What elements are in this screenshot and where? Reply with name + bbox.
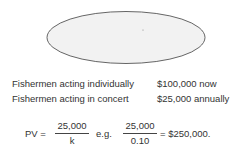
fraction-numerator: 25,000	[123, 120, 157, 132]
pv-formula: PV = 25,000 k e.g. 25,000 0.10 = $250,00…	[0, 120, 252, 152]
fraction-example: 25,000 0.10	[123, 120, 157, 147]
fraction-bar	[123, 133, 157, 134]
row-value: $25,000 annually	[157, 93, 229, 104]
fraction-bar	[55, 133, 89, 134]
ellipse-diagram	[0, 0, 252, 75]
formula-lhs: PV =	[25, 128, 46, 139]
formula-eg: e.g.	[96, 128, 112, 139]
row-value: $100,000 now	[157, 78, 217, 89]
formula-result: = $250,000.	[160, 128, 210, 139]
ellipse-shape	[0, 0, 252, 75]
fraction-numerator: 25,000	[55, 120, 89, 132]
row-label: Fishermen acting individually	[12, 78, 134, 89]
row-label: Fishermen acting in concert	[12, 93, 129, 104]
fraction-denominator: k	[55, 135, 89, 147]
fraction-denominator: 0.10	[123, 135, 157, 147]
fraction-general: 25,000 k	[55, 120, 89, 147]
